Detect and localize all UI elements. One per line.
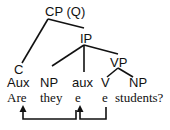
arrowhead-up-icon	[20, 105, 27, 112]
branch-ip-np	[52, 45, 84, 66]
node-ip: IP	[80, 31, 92, 46]
category-np-subject: NP	[40, 75, 58, 90]
syntax-tree-diagram: CP (Q) IP VP C Aux NP aux V NP Are they …	[0, 0, 170, 130]
category-aux-c: Aux	[7, 75, 30, 90]
category-aux: aux	[72, 75, 93, 90]
arrow-v-to-aux	[80, 107, 106, 119]
word-e-v: e	[102, 90, 108, 105]
branch-cp-c	[22, 19, 48, 63]
word-e-aux: e	[75, 90, 81, 105]
category-np-object: NP	[129, 75, 147, 90]
node-vp: VP	[110, 55, 127, 70]
word-are: Are	[7, 90, 27, 105]
arrowheads	[20, 105, 84, 112]
arrowhead-up-icon	[77, 105, 84, 112]
word-they: they	[40, 90, 63, 105]
node-cp-q: CP (Q)	[45, 4, 85, 19]
branch-cp-ip	[48, 19, 84, 28]
category-v: V	[101, 75, 110, 90]
arrow-aux-to-c	[23, 110, 76, 119]
movement-arrows	[23, 107, 106, 119]
word-students: students?	[115, 90, 164, 105]
branch-ip-vp	[84, 45, 118, 54]
